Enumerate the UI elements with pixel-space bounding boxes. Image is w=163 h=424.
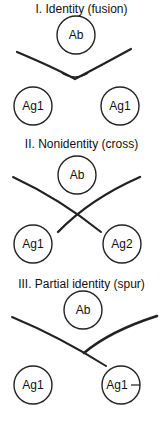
svg-text:Ag2: Ag2 xyxy=(111,237,133,251)
svg-text:Ab: Ab xyxy=(69,28,84,42)
ag-well-right: Ag2 xyxy=(103,225,141,263)
ab-well: Ab xyxy=(64,291,102,329)
svg-text:Ag1: Ag1 xyxy=(109,99,131,113)
ab-well: Ab xyxy=(58,156,96,194)
precipitin-line-ag2 xyxy=(58,177,140,232)
section-identity: I. Identity (fusion) Ab Ag1 Ag1 xyxy=(0,0,163,135)
ag-well-right: Ag1 xyxy=(102,366,140,404)
precipitin-line-spur xyxy=(12,317,106,366)
svg-text:Ag1: Ag1 xyxy=(106,378,128,392)
svg-text:Ab: Ab xyxy=(76,303,91,317)
identity-diagram: Ab Ag1 Ag1 xyxy=(0,0,163,135)
precipitin-line-ag1 xyxy=(84,316,157,353)
ab-well: Ab xyxy=(57,16,95,54)
precipitin-line-ag1 xyxy=(13,177,101,232)
partial-identity-diagram: Ab Ag1 Ag1 xyxy=(0,275,163,424)
section-nonidentity: II. Nonidentity (cross) Ab Ag1 Ag2 xyxy=(0,135,163,275)
ag-well-right: Ag1 xyxy=(101,87,139,125)
nonidentity-diagram: Ab Ag1 Ag2 xyxy=(0,135,163,275)
ag-well-left: Ag1 xyxy=(14,366,52,404)
ag-well-left: Ag1 xyxy=(14,225,52,263)
svg-text:Ag1: Ag1 xyxy=(22,378,44,392)
svg-text:Ag1: Ag1 xyxy=(22,237,44,251)
ag-well-left: Ag1 xyxy=(14,87,52,125)
section-partial-identity: III. Partial identity (spur) Ab Ag1 Ag1 xyxy=(0,275,163,424)
svg-text:Ab: Ab xyxy=(70,168,85,182)
svg-text:Ag1: Ag1 xyxy=(22,99,44,113)
